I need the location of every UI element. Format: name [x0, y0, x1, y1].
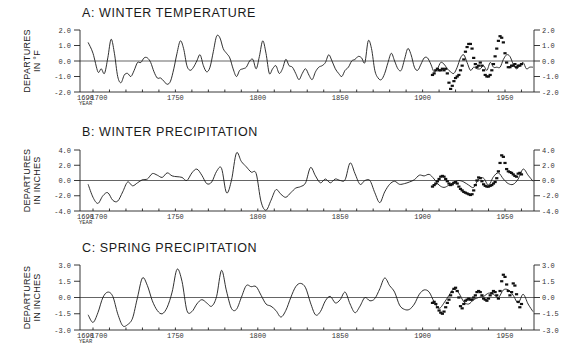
observed-series-dashes	[431, 36, 523, 89]
y-tick-label: -4.0	[54, 208, 71, 216]
y-tick-label-right: 3.0	[542, 262, 555, 270]
observed-series-dashes	[431, 275, 523, 314]
x-tick-label: 1850	[332, 94, 349, 102]
x-tick-label: 1700	[91, 94, 108, 102]
y-tick-label-right: 2.0	[542, 162, 555, 170]
y-tick-label-right: -2.0	[542, 89, 559, 97]
reconstructed-series-line	[88, 152, 533, 210]
y-tick-label-right: -2.0	[542, 192, 559, 200]
x-tick-label: 1850	[332, 332, 349, 340]
y-tick-label-right: -1.0	[542, 73, 559, 81]
y-tick-label-right: -4.0	[542, 208, 559, 216]
y-axis-label: IN °F	[32, 50, 42, 72]
y-tick-label: -3.0	[54, 327, 71, 335]
panel-title: C: SPRING PRECIPITATION	[82, 241, 257, 255]
y-tick-label-right: 4.0	[542, 147, 555, 155]
figure-canvas: A: WINTER TEMPERATUREDEPARTURESIN °F2.02…	[0, 0, 585, 363]
x-tick-label: 1800	[249, 332, 266, 340]
x-tick-label: 1800	[249, 94, 266, 102]
x-tick-label: 1750	[167, 94, 184, 102]
panel-c: C: SPRING PRECIPITATIONDEPARTURESIN INCH…	[22, 241, 559, 345]
panel-title: A: WINTER TEMPERATURE	[82, 6, 256, 20]
y-tick-label-right: -1.5	[542, 310, 559, 318]
y-tick-label: 0.0	[58, 177, 71, 185]
x-tick-label: 1950	[497, 94, 514, 102]
y-tick-label-right: 1.5	[542, 278, 555, 286]
y-axis-label: IN INCHES	[32, 273, 42, 321]
x-tick-label: 1750	[167, 213, 184, 221]
y-tick-label-right: 1.0	[542, 42, 555, 50]
x-tick-label: 1900	[414, 94, 431, 102]
panel-a: A: WINTER TEMPERATUREDEPARTURESIN °F2.02…	[22, 6, 559, 107]
x-tick-label: 1900	[414, 332, 431, 340]
y-tick-label: 1.5	[58, 278, 71, 286]
x-tick-label: 1750	[167, 332, 184, 340]
panel-b: B: WINTER PRECIPITATIONDEPARTURESIN INCH…	[22, 125, 559, 226]
y-tick-label: 4.0	[58, 147, 71, 155]
y-tick-label-right: 0.0	[542, 294, 555, 302]
y-axis-label: DEPARTURES	[22, 266, 32, 330]
y-tick-label: -2.0	[54, 192, 71, 200]
y-tick-label: 1.0	[58, 42, 71, 50]
y-tick-label: 2.0	[58, 162, 71, 170]
y-tick-label: 0.0	[58, 58, 71, 66]
x-tick-label: 1900	[414, 213, 431, 221]
reconstructed-series-line	[88, 35, 533, 84]
y-tick-label-right: 0.0	[542, 58, 555, 66]
y-tick-label: -1.5	[54, 310, 71, 318]
y-tick-label-right: -3.0	[542, 327, 559, 335]
y-tick-label: -1.0	[54, 73, 71, 81]
y-axis-label: IN INCHES	[32, 156, 42, 204]
x-tick-label: 1950	[497, 213, 514, 221]
y-tick-label: 0.0	[58, 294, 71, 302]
y-tick-label: 2.0	[58, 27, 71, 35]
y-axis-label: DEPARTURES	[22, 29, 32, 93]
observed-series-dashes	[431, 155, 523, 195]
x-tick-label: 1950	[497, 332, 514, 340]
y-tick-label-right: 2.0	[542, 27, 555, 35]
y-tick-label: 3.0	[58, 262, 71, 270]
x-tick-label: 1700	[91, 213, 108, 221]
panel-title: B: WINTER PRECIPITATION	[82, 125, 258, 139]
y-tick-label-right: 0.0	[542, 177, 555, 185]
y-tick-label: -2.0	[54, 89, 71, 97]
x-tick-label: 1800	[249, 213, 266, 221]
x-tick-label: 1850	[332, 213, 349, 221]
x-tick-label: 1700	[91, 332, 108, 340]
y-axis-label: DEPARTURES	[22, 149, 32, 213]
